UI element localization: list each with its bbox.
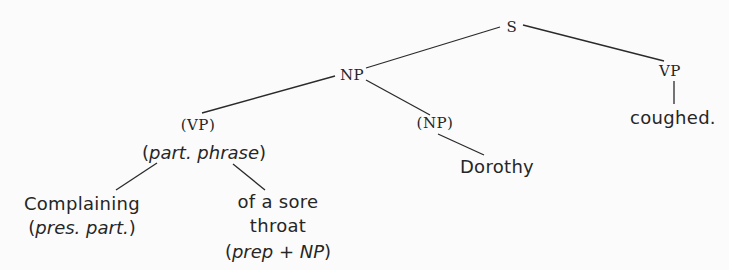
- edge-s-np: [366, 27, 500, 68]
- paren-open: (: [225, 241, 232, 262]
- paren-close: ): [324, 241, 331, 262]
- node-vp: VP: [659, 64, 681, 79]
- paren-open: (: [142, 142, 149, 163]
- paren-close: ): [129, 217, 136, 238]
- note-text: part. phrase: [149, 142, 259, 163]
- node-vp-optional: (VP): [181, 118, 216, 133]
- leaf-of-a-sore: of a sore: [238, 193, 319, 211]
- note-part-phrase: (part. phrase): [142, 144, 266, 162]
- paren-open: (: [28, 217, 35, 238]
- leaf-coughed: coughed.: [630, 109, 716, 127]
- edge-part-complaining: [116, 163, 157, 190]
- leaf-dorothy: Dorothy: [460, 158, 534, 176]
- node-s: S: [507, 20, 518, 35]
- edge-np-vp-paren: [202, 76, 335, 113]
- leaf-complaining: Complaining: [24, 195, 140, 213]
- note-text: prep + NP: [232, 241, 324, 262]
- edge-part-of-a-sore: [233, 164, 265, 190]
- leaf-throat: throat: [250, 217, 306, 235]
- paren-close: ): [259, 142, 266, 163]
- node-np-optional: (NP): [417, 116, 454, 131]
- note-prep-np: (prep + NP): [225, 243, 331, 261]
- edge-s-vp: [523, 25, 664, 61]
- node-np: NP: [340, 68, 364, 83]
- edge-np-np-paren: [366, 80, 430, 115]
- note-pres-part: (pres. part.): [28, 219, 135, 237]
- edge-np-paren-dorothy: [438, 134, 484, 155]
- note-text: pres. part.: [35, 217, 128, 238]
